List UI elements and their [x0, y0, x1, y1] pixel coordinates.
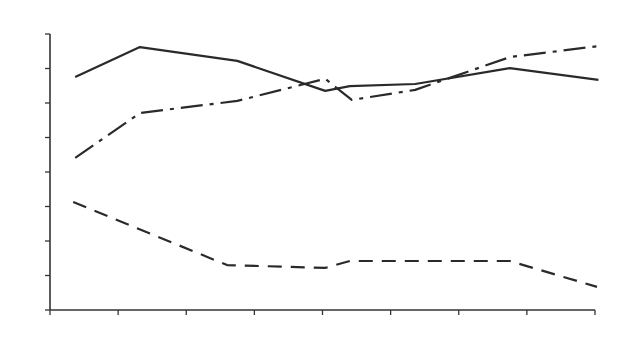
- series-lines: [73, 46, 598, 287]
- series-line-solid: [75, 47, 598, 91]
- series-line-dashed: [73, 202, 597, 287]
- series-line-dash-dot: [75, 46, 598, 158]
- axes: [45, 34, 595, 315]
- line-chart: [0, 0, 632, 347]
